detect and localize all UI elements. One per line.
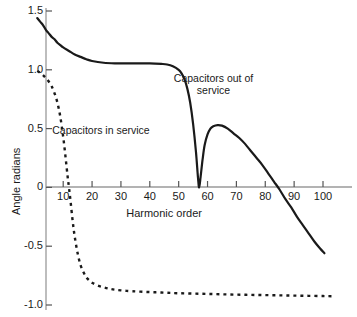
x-tick-label: 100 <box>303 190 343 202</box>
capacitors-out-of-service-label: Capacitors out ofservice <box>174 72 253 96</box>
annotation-line: service <box>174 84 253 96</box>
y-tick-marks <box>46 11 52 305</box>
annotation-line: Capacitors in service <box>52 124 149 136</box>
plot-area <box>0 0 357 317</box>
capacitors-in-service-label: Capacitors in service <box>52 124 149 136</box>
y-tick-label: 1.0 <box>28 63 43 75</box>
x-axis-title: Harmonic order <box>126 207 202 219</box>
y-tick-label: -0.5 <box>24 239 43 251</box>
series-line-1 <box>37 71 331 296</box>
y-axis-title: Angle radians <box>10 148 22 215</box>
y-tick-label: -1.0 <box>24 298 43 310</box>
x-tick-marks <box>63 181 323 187</box>
y-tick-label: 0 <box>37 180 43 192</box>
harmonic-angle-chart: 1.51.00.50-0.5-1.0 102030405060708090100… <box>0 0 357 317</box>
y-tick-label: 1.5 <box>28 4 43 16</box>
y-tick-label: 0.5 <box>28 122 43 134</box>
annotation-line: Capacitors out of <box>174 72 253 84</box>
data-series-group <box>37 18 331 296</box>
axis-group <box>46 8 352 310</box>
